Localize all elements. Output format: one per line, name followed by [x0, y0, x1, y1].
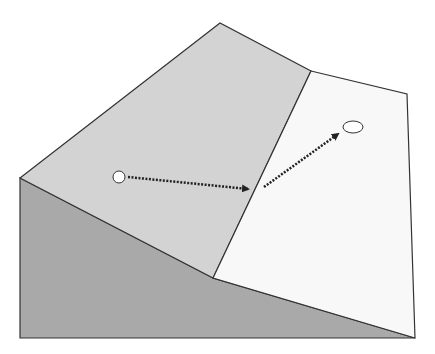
slope-diagram-svg: [0, 0, 435, 354]
end-point-marker: [343, 121, 363, 133]
slope-diagram: [0, 0, 435, 354]
start-point-marker: [113, 171, 125, 183]
